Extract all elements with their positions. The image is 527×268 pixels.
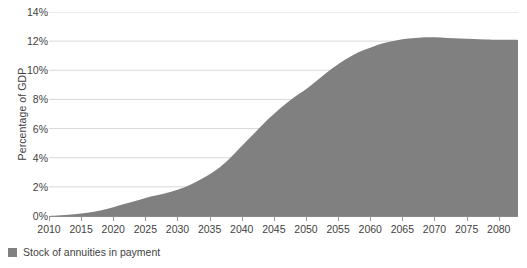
x-axis-tick-mark	[81, 217, 82, 221]
x-axis-tick-mark	[338, 217, 339, 221]
y-axis-tick-labels: 0%2%4%6%8%10%12%14%	[22, 0, 48, 240]
x-axis-tick-marks	[49, 217, 518, 222]
x-axis-tick-mark	[499, 217, 500, 221]
x-axis-tick-mark	[274, 217, 275, 221]
legend-item-label: Stock of annuities in payment	[23, 246, 160, 258]
y-axis-tick-label: 8%	[22, 93, 48, 105]
y-axis-tick-label: 4%	[22, 152, 48, 164]
x-axis-tick-label: 2015	[69, 223, 92, 235]
x-axis-tick-labels: 2010201520202025203020352040204520502055…	[0, 223, 527, 239]
x-axis-tick-label: 2030	[166, 223, 189, 235]
x-axis-tick-label: 2055	[326, 223, 349, 235]
y-axis-tick-label: 14%	[22, 6, 48, 18]
x-axis-tick-mark	[467, 217, 468, 221]
x-axis-tick-label: 2035	[198, 223, 221, 235]
legend: Stock of annuities in payment	[8, 246, 160, 258]
x-axis-tick-mark	[177, 217, 178, 221]
plot-area	[49, 12, 518, 216]
x-axis-tick-label: 2075	[455, 223, 478, 235]
x-axis-tick-label: 2010	[37, 223, 60, 235]
x-axis-tick-mark	[434, 217, 435, 221]
x-axis-tick-label: 2070	[423, 223, 446, 235]
x-axis-tick-label: 2020	[102, 223, 125, 235]
y-axis-tick-label: 2%	[22, 181, 48, 193]
series-area-stock-of-annuities-in-payment	[49, 37, 518, 216]
chart-container: Percentage of GDP 0%2%4%6%8%10%12%14% 20…	[0, 0, 527, 268]
x-axis-tick-mark	[306, 217, 307, 221]
y-axis-tick-label: 6%	[22, 123, 48, 135]
x-axis-tick-label: 2050	[294, 223, 317, 235]
x-axis-tick-label: 2065	[391, 223, 414, 235]
x-axis-tick-mark	[402, 217, 403, 221]
y-axis-tick-label: 0%	[22, 210, 48, 222]
x-axis-tick-label: 2040	[230, 223, 253, 235]
x-axis-tick-label: 2045	[262, 223, 285, 235]
x-axis-tick-mark	[242, 217, 243, 221]
x-axis-tick-mark	[113, 217, 114, 221]
x-axis-tick-label: 2025	[134, 223, 157, 235]
x-axis-tick-label: 2080	[487, 223, 510, 235]
x-axis-tick-label: 2060	[359, 223, 382, 235]
x-axis-tick-mark	[370, 217, 371, 221]
area-series-svg	[49, 12, 518, 216]
x-axis-tick-mark	[49, 217, 50, 221]
y-axis-tick-label: 10%	[22, 64, 48, 76]
x-axis-tick-mark	[210, 217, 211, 221]
y-axis-tick-label: 12%	[22, 35, 48, 47]
x-axis-tick-mark	[145, 217, 146, 221]
legend-swatch-icon	[8, 248, 17, 257]
